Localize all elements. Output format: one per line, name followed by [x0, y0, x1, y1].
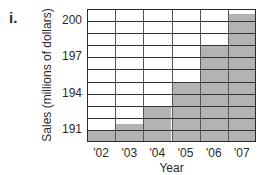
- figure-label: i.: [9, 9, 17, 26]
- y-tick-label: 191: [58, 122, 82, 136]
- y-axis-label: Sales (millions of dollars): [40, 8, 54, 141]
- plot-area: [87, 9, 256, 142]
- x-tick-label: '03: [115, 146, 143, 160]
- x-tick-label: '07: [228, 146, 256, 160]
- y-tick-label: 197: [58, 49, 82, 63]
- x-tick-label: '04: [143, 146, 171, 160]
- x-tick-label: '05: [172, 146, 200, 160]
- x-tick-label: '06: [200, 146, 228, 160]
- y-tick-label: 194: [58, 86, 82, 100]
- plot-frame: [87, 9, 256, 142]
- x-tick-label: '02: [87, 146, 115, 160]
- y-tick-label: 200: [58, 13, 82, 27]
- x-axis-label: Year: [87, 161, 256, 175]
